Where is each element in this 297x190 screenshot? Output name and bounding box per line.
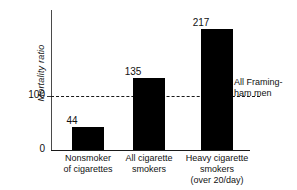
reference-note-line-1: All Framing- xyxy=(234,77,297,88)
mortality-ratio-bar-chart: Mortality ratio 100 0 All Framing- ham m… xyxy=(0,0,297,190)
category-label-heavy-cigarette-smokers: Heavy cigarette smokers (over 20/day) xyxy=(171,153,263,186)
bar-heavy-cigarette-smokers xyxy=(201,29,233,150)
bar-value-label-3: 217 xyxy=(171,17,231,28)
y-axis-title: Mortality ratio xyxy=(36,28,46,118)
y-axis-line xyxy=(51,10,52,150)
bar-nonsmoker xyxy=(72,127,104,150)
bar-value-label-2: 135 xyxy=(103,66,163,77)
y-tick-label-100: 100 xyxy=(18,89,45,100)
bar-all-cigarette-smokers xyxy=(133,78,165,150)
bar-value-label-1: 44 xyxy=(42,115,102,126)
reference-line-annotation: All Framing- ham men xyxy=(234,77,297,99)
category-label-line-2: smokers xyxy=(171,164,263,175)
category-label-line-3: (over 20/day) xyxy=(171,175,263,186)
y-tick-label-0: 0 xyxy=(18,143,45,154)
category-label-line-1: Heavy cigarette xyxy=(171,153,263,164)
reference-note-line-2: ham men xyxy=(234,88,297,99)
x-axis-line xyxy=(51,150,250,151)
